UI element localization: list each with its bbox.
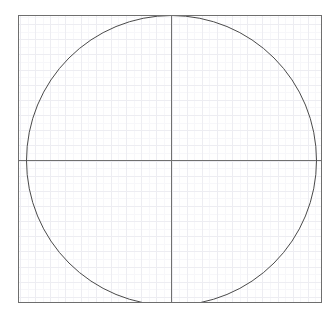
plot-canvas [0, 0, 335, 312]
figure-root [0, 0, 335, 312]
